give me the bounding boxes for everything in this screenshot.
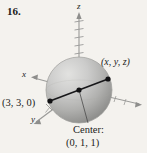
x-axis-positive-arrowhead: [135, 102, 142, 107]
point-xyz-label: (x, y, z): [101, 56, 130, 67]
center-dot: [76, 87, 81, 92]
x-axis-label: x: [22, 69, 26, 80]
point-xyz-dot: [105, 76, 110, 81]
z-axis-arrowhead: [76, 12, 81, 19]
center-coordinates: (0, 1, 1): [66, 137, 99, 148]
y-axis-label: y: [31, 114, 35, 125]
problem-number: 16.: [7, 5, 21, 17]
point-3-3-0-label: (3, 3, 0): [2, 97, 35, 108]
point-3-3-0-dot: [47, 98, 52, 103]
figure-container: 16. z x y (x, y, z) (3, 3, 0) Center: (0…: [0, 0, 147, 153]
z-axis-label: z: [77, 1, 81, 12]
x-axis-arrowhead: [31, 75, 38, 80]
center-caption: Center:: [73, 124, 104, 135]
